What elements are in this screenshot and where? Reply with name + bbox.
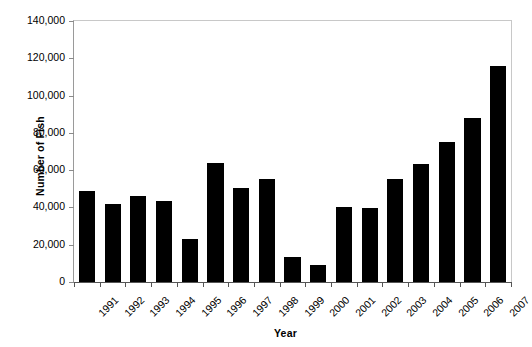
y-tick-label: 40,000 bbox=[33, 200, 65, 212]
x-tick-label: 1999 bbox=[301, 294, 326, 319]
bar bbox=[336, 207, 352, 283]
x-axis-title: Year bbox=[0, 327, 519, 339]
y-tick-label: 60,000 bbox=[33, 163, 65, 175]
bar bbox=[284, 257, 300, 282]
bar bbox=[490, 66, 506, 282]
bar bbox=[464, 118, 480, 282]
x-tick-label: 2005 bbox=[455, 294, 480, 319]
x-tick-label: 1998 bbox=[275, 294, 300, 319]
bar-slot bbox=[382, 21, 408, 282]
bar-slot bbox=[460, 21, 486, 282]
x-tick-label: 1997 bbox=[250, 294, 275, 319]
bar bbox=[105, 204, 121, 282]
bar bbox=[439, 142, 455, 282]
x-tick-mark bbox=[408, 282, 409, 287]
bar bbox=[156, 201, 172, 282]
x-tick-mark bbox=[485, 282, 486, 287]
x-tick-mark bbox=[254, 282, 255, 287]
y-tick-label: 80,000 bbox=[33, 126, 65, 138]
bar bbox=[310, 265, 326, 282]
x-tick-mark bbox=[228, 282, 229, 287]
x-tick-mark bbox=[100, 282, 101, 287]
x-tick-label: 1994 bbox=[173, 294, 198, 319]
bar bbox=[413, 164, 429, 282]
bar-slot bbox=[228, 21, 254, 282]
x-tick-label: 1992 bbox=[121, 294, 146, 319]
bar bbox=[259, 179, 275, 282]
x-tick-mark bbox=[280, 282, 281, 287]
y-tick-label: 120,000 bbox=[27, 51, 65, 63]
x-tick-mark bbox=[125, 282, 126, 287]
plot-area: 020,00040,00060,00080,000100,000120,0001… bbox=[73, 20, 512, 283]
y-tick-label: 20,000 bbox=[33, 238, 65, 250]
x-tick-mark bbox=[203, 282, 204, 287]
x-tick-mark bbox=[305, 282, 306, 287]
bar-slot bbox=[125, 21, 151, 282]
x-tick-label: 2003 bbox=[404, 294, 429, 319]
bar bbox=[79, 191, 95, 282]
bar-slot bbox=[331, 21, 357, 282]
x-tick-label: 1996 bbox=[224, 294, 249, 319]
bar-slot bbox=[408, 21, 434, 282]
bar bbox=[182, 239, 198, 282]
x-tick-label: 2006 bbox=[481, 294, 506, 319]
y-axis-title: Number of Fish bbox=[34, 46, 46, 266]
x-tick-mark bbox=[331, 282, 332, 287]
bar bbox=[130, 196, 146, 282]
x-tick-label: 1995 bbox=[198, 294, 223, 319]
x-tick-mark bbox=[460, 282, 461, 287]
bar-slot bbox=[280, 21, 306, 282]
bar-slot bbox=[151, 21, 177, 282]
x-tick-mark bbox=[511, 282, 512, 287]
bar-slot bbox=[100, 21, 126, 282]
x-tick-mark bbox=[382, 282, 383, 287]
x-tick-mark bbox=[357, 282, 358, 287]
bar-slot bbox=[74, 21, 100, 282]
bar-slot bbox=[305, 21, 331, 282]
x-tick-mark bbox=[151, 282, 152, 287]
bar-slot bbox=[485, 21, 511, 282]
x-tick-label: 2002 bbox=[378, 294, 403, 319]
bar bbox=[387, 179, 403, 282]
y-tick-label: 100,000 bbox=[27, 89, 65, 101]
bar-slot bbox=[203, 21, 229, 282]
bar-slot bbox=[434, 21, 460, 282]
bar bbox=[233, 188, 249, 282]
x-tick-mark bbox=[74, 282, 75, 287]
x-tick-label: 1991 bbox=[95, 294, 120, 319]
x-tick-label: 1993 bbox=[147, 294, 172, 319]
x-tick-label: 2004 bbox=[430, 294, 455, 319]
x-tick-mark bbox=[434, 282, 435, 287]
bar-slot bbox=[357, 21, 383, 282]
x-tick-label: 2007 bbox=[507, 294, 532, 319]
bar-slot bbox=[177, 21, 203, 282]
y-tick-label: 140,000 bbox=[27, 14, 65, 26]
bar-slot bbox=[254, 21, 280, 282]
x-axis-title-text: Year bbox=[222, 327, 297, 339]
bar bbox=[362, 208, 378, 282]
bar bbox=[207, 163, 223, 282]
x-tick-label: 2000 bbox=[327, 294, 352, 319]
x-tick-label: 2001 bbox=[353, 294, 378, 319]
y-tick-label: 0 bbox=[59, 275, 65, 287]
x-tick-mark bbox=[177, 282, 178, 287]
